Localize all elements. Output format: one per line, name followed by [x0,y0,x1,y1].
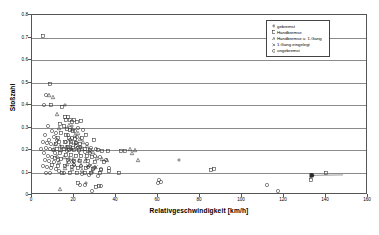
y-tick [28,172,31,173]
data-point [61,170,65,174]
legend-item-circle[interactable]: ungebremst [270,48,327,54]
y-tick [28,149,31,150]
data-point [96,174,100,178]
data-point [106,149,110,153]
y-tick-label: 0.7 [22,34,28,39]
data-point [70,167,74,171]
y-tick-label: 0.6 [22,57,28,62]
data-point [103,158,107,162]
data-point [51,95,55,99]
data-point [48,170,52,174]
y-tick [28,37,31,38]
x-tick-label: 0 [30,197,33,202]
scatter-chart-figure: Stoßzahl 00.10.20.30.40.50.60.70.8 02040… [0,0,379,235]
data-point [55,112,59,116]
data-point [94,185,98,189]
data-point [87,173,91,177]
data-point [107,166,111,170]
cross-marker-icon [270,43,277,47]
data-point [77,151,81,155]
y-tick-label: 0 [25,192,28,197]
data-point [86,165,90,169]
x-tick-label: 160 [363,197,371,202]
data-point [80,172,84,176]
data-point [57,125,61,129]
data-point [100,149,104,153]
data-point [44,93,48,97]
triangle-marker-icon [270,37,277,41]
data-point [83,133,87,137]
data-point [64,140,68,144]
data-point [92,138,96,142]
x-tick-label: 60 [154,197,159,202]
data-point [58,187,62,191]
legend[interactable]: gebremstHandbremseHandbremse u. 1.Gang1.… [266,20,330,57]
data-point [117,170,121,174]
data-point [78,145,82,149]
circle-marker-icon [270,49,277,53]
legend-item-label: ungebremst [277,48,300,53]
legend-item-label: Handbremse [277,30,302,35]
data-point [67,160,71,164]
y-tick-label: 0.4 [22,102,28,107]
data-point [130,151,134,155]
data-point [47,159,51,163]
legend-item-triangle[interactable]: Handbremse u. 1.Gang [270,35,327,41]
data-point [75,134,79,138]
data-point [79,164,83,168]
data-point [76,125,80,129]
legend-item-label: gebremst [277,24,295,29]
data-point [75,170,79,174]
data-point [40,34,44,38]
y-axis-title: Stoßzahl [9,68,16,128]
data-point [54,131,58,135]
data-point [83,157,87,161]
x-tick-label: 100 [237,197,245,202]
data-point [156,181,160,185]
y-tick-label: 0.5 [22,79,28,84]
data-point [41,103,45,107]
data-point [74,143,78,147]
data-point [70,136,74,140]
legend-item-label: 1.Gang eingelegt [277,42,310,47]
data-point [89,146,93,150]
data-point [55,138,59,142]
legend-item-label: Handbremse u. 1.Gang [277,36,322,41]
data-point [99,184,103,188]
x-tick-label: 120 [279,197,287,202]
data-point [56,158,60,162]
x-axis-title: Relativgeschwindigkeit [km/h] [31,207,367,214]
plus-marker-icon [270,24,277,28]
data-point [93,154,97,158]
data-point [69,142,73,146]
data-point [88,151,92,155]
data-point [92,166,96,170]
data-point [136,158,140,162]
data-point [60,105,64,109]
data-point [79,119,83,123]
data-point [90,188,94,192]
data-point [53,151,57,155]
y-tick [28,82,31,83]
square-marker-icon [270,30,277,34]
y-tick-label: 0.8 [22,12,28,17]
data-point [276,188,280,192]
data-point [82,183,86,187]
data-point [94,147,98,151]
y-tick [28,59,31,60]
data-point [212,167,216,171]
x-tick-label: 80 [196,197,201,202]
scan-artifact [309,172,345,179]
data-point [99,167,103,171]
x-tick-label: 140 [321,197,329,202]
data-point [98,155,102,159]
data-point [59,148,63,152]
x-tick-label: 20 [70,197,75,202]
data-point [81,128,85,132]
data-point [61,155,65,159]
data-point [82,150,86,154]
data-point [65,149,69,153]
y-tick [28,127,31,128]
y-tick-label: 0.3 [22,124,28,129]
data-point [49,103,53,107]
